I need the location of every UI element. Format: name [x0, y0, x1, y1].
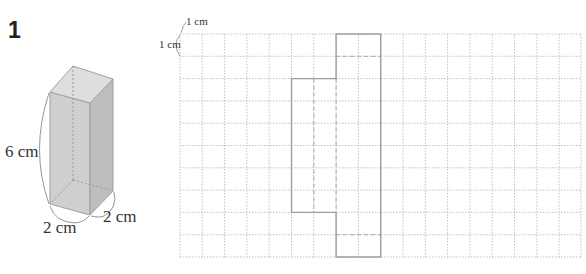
unit-label-y: 1 cm: [159, 38, 181, 50]
unit-label-x: 1 cm: [186, 15, 208, 27]
depth-label: 2 cm: [103, 207, 137, 226]
height-brace: [40, 93, 50, 204]
net-fold-lines: [314, 56, 381, 234]
grid-unit-labels: 1 cm 1 cm: [159, 15, 208, 56]
figure-canvas: 6 cm 2 cm 2 cm: [0, 0, 586, 274]
height-label: 6 cm: [5, 142, 39, 161]
square-prism-figure: 6 cm 2 cm 2 cm: [5, 66, 137, 237]
prism-front-face: [50, 92, 90, 215]
width-label: 2 cm: [43, 218, 77, 237]
